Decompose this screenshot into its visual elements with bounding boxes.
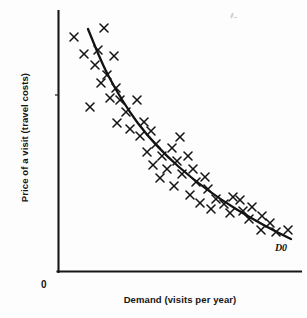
scatter-point bbox=[143, 148, 151, 156]
scatter-point bbox=[257, 226, 265, 234]
scan-speck bbox=[234, 17, 237, 18]
scatter-point bbox=[170, 182, 178, 190]
scatter-point bbox=[110, 52, 118, 60]
scatter-point bbox=[158, 152, 166, 160]
scatter-markers bbox=[70, 24, 292, 236]
scatter-point bbox=[163, 165, 171, 173]
scatter-point bbox=[226, 209, 234, 217]
scatter-point bbox=[178, 170, 186, 178]
scatter-point bbox=[201, 173, 209, 181]
scatter-point bbox=[284, 226, 292, 234]
demand-curve-plot bbox=[0, 0, 307, 318]
scatter-point bbox=[140, 118, 148, 126]
scatter-point bbox=[258, 212, 266, 220]
scatter-point bbox=[100, 24, 108, 32]
scatter-point bbox=[248, 203, 256, 211]
scatter-point bbox=[80, 50, 88, 58]
scatter-point bbox=[91, 61, 99, 69]
scatter-point bbox=[236, 196, 244, 204]
scatter-point bbox=[97, 79, 105, 87]
scatter-point bbox=[149, 161, 157, 169]
scatter-point bbox=[106, 94, 114, 102]
scatter-point bbox=[152, 140, 160, 148]
scatter-point bbox=[168, 144, 176, 152]
figure-container: Price of a visit (travel costs) Demand (… bbox=[0, 0, 307, 318]
scatter-point bbox=[176, 133, 184, 141]
scatter-point bbox=[70, 33, 78, 41]
scatter-point bbox=[147, 127, 155, 135]
scatter-point bbox=[229, 193, 237, 201]
scatter-point bbox=[113, 119, 121, 127]
scatter-point bbox=[86, 103, 94, 111]
scatter-point bbox=[126, 125, 134, 133]
scatter-point bbox=[266, 219, 274, 227]
scatter-point bbox=[196, 199, 204, 207]
scatter-point bbox=[156, 174, 164, 182]
scatter-point bbox=[184, 152, 192, 160]
demand-curve-label: D0 bbox=[275, 242, 287, 253]
scatter-point bbox=[136, 132, 144, 140]
scatter-point bbox=[133, 96, 141, 104]
x-axis-label: Demand (visits per year) bbox=[60, 294, 300, 305]
y-axis-label: Price of a visit (travel costs) bbox=[19, 58, 30, 218]
scatter-point bbox=[186, 191, 194, 199]
origin-label: 0 bbox=[41, 279, 47, 290]
scatter-point bbox=[189, 165, 197, 173]
scatter-point bbox=[207, 205, 215, 213]
